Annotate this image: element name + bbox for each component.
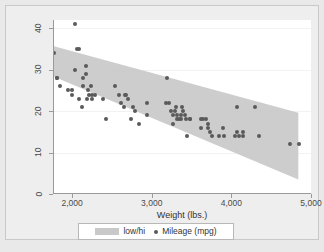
legend-label-mileage: Mileage (mpg) — [162, 227, 216, 236]
scatter-point — [257, 134, 261, 138]
y-axis-tick-label-text: 40 — [35, 24, 44, 33]
scatter-point — [77, 97, 81, 101]
scatter-point — [58, 84, 62, 88]
scatter-point — [77, 47, 81, 51]
legend-label-low-hi: low/hi — [123, 227, 145, 236]
y-axis-tick-label-text: 0 — [35, 192, 44, 197]
scatter-point — [80, 105, 84, 109]
scatter-point — [221, 126, 225, 130]
scatter-point — [81, 84, 85, 88]
scatter-point — [174, 105, 178, 109]
scatter-point — [70, 93, 74, 97]
scatter-point — [210, 134, 214, 138]
plot-area — [53, 20, 311, 194]
plot-inner — [54, 20, 311, 193]
y-axis-tick-label: 20 — [32, 104, 46, 118]
chart-screenshot: 010203040 2,0003,0004,0005,000 Weight (l… — [0, 0, 324, 252]
legend-band-swatch-icon — [95, 228, 119, 235]
scatter-point — [117, 93, 121, 97]
graph-region: 010203040 2,0003,0004,0005,000 Weight (l… — [5, 5, 319, 240]
y-axis-tick — [49, 194, 53, 195]
legend-entry-mileage[interactable]: Mileage (mpg) — [154, 227, 216, 236]
scatter-point — [145, 101, 149, 105]
scatter-point — [241, 134, 245, 138]
scatter-point — [85, 97, 89, 101]
legend-dot-marker-icon — [154, 230, 158, 234]
scatter-point — [101, 97, 105, 101]
x-axis-tick-label: 3,000 — [141, 199, 162, 208]
y-axis-tick-label: 0 — [32, 187, 46, 201]
scatter-point — [217, 134, 221, 138]
x-axis-tick-label: 2,000 — [61, 199, 82, 208]
y-axis-tick-label: 40 — [32, 21, 46, 35]
y-axis-tick-label: 30 — [32, 63, 46, 77]
y-axis-tick-label-text: 10 — [35, 148, 44, 157]
y-axis-tick-label-text: 20 — [35, 106, 44, 115]
scatter-point — [137, 122, 141, 126]
scatter-point — [84, 72, 88, 76]
scatter-point — [73, 22, 77, 26]
y-axis-tick-label: 10 — [32, 146, 46, 160]
scatter-point — [126, 97, 130, 101]
y-axis-tick-label-text: 30 — [35, 65, 44, 74]
chart-legend[interactable]: low/hi Mileage (mpg) — [78, 223, 234, 240]
legend-entry-band[interactable]: low/hi — [95, 227, 145, 236]
x-axis-tick-label: 4,000 — [221, 199, 242, 208]
scatter-point — [84, 64, 88, 68]
scatter-point — [73, 68, 77, 72]
x-axis-title: Weight (lbs.) — [53, 211, 311, 220]
x-axis-tick-label: 5,000 — [300, 199, 321, 208]
scatter-point — [288, 142, 292, 146]
scatter-point — [113, 84, 117, 88]
scatter-point — [185, 134, 189, 138]
scatter-point — [90, 97, 94, 101]
scatter-point — [171, 113, 175, 117]
